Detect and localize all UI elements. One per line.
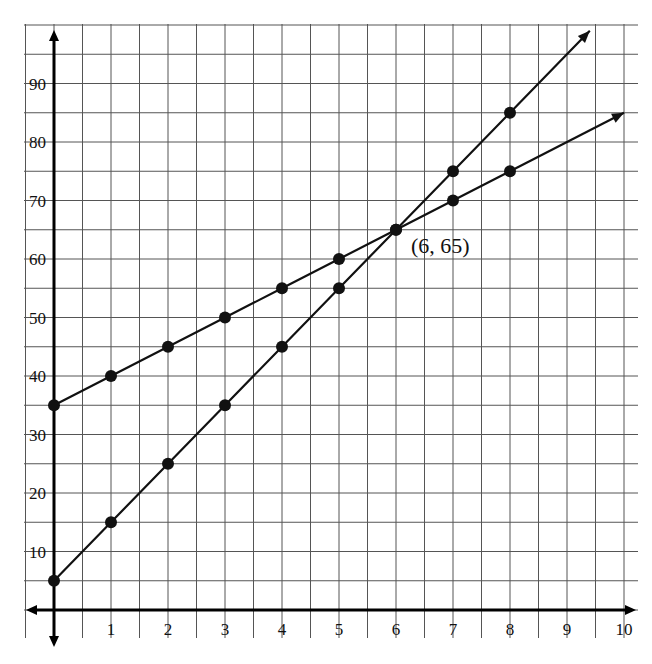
data-point: [219, 312, 231, 324]
x-axis-left-arrow-icon: [26, 605, 37, 615]
annotations: (6, 65): [411, 233, 470, 258]
x-tick-labels: 12345678910: [107, 620, 633, 639]
series-lines: [48, 31, 624, 587]
data-point: [333, 253, 345, 265]
data-point: [162, 458, 174, 470]
x-tick-label: 6: [392, 620, 401, 639]
y-tick-label: 50: [29, 309, 46, 328]
grid: [24, 24, 638, 638]
x-tick-label: 7: [449, 620, 458, 639]
data-point: [48, 399, 60, 411]
data-point: [333, 282, 345, 294]
x-tick-label: 8: [506, 620, 515, 639]
y-axis-down-arrow-icon: [49, 636, 59, 647]
data-point: [447, 165, 459, 177]
data-point: [48, 575, 60, 587]
data-point: [162, 341, 174, 353]
y-tick-label: 60: [29, 250, 46, 269]
data-point: [504, 107, 516, 119]
x-tick-label: 10: [616, 620, 633, 639]
x-tick-label: 1: [107, 620, 116, 639]
y-tick-label: 30: [29, 426, 46, 445]
y-tick-label: 20: [29, 484, 46, 503]
x-axis-right-arrow-icon: [625, 605, 636, 615]
x-tick-label: 9: [563, 620, 572, 639]
data-point: [276, 282, 288, 294]
x-tick-label: 4: [278, 620, 287, 639]
data-point: [105, 516, 117, 528]
x-tick-label: 3: [221, 620, 230, 639]
y-tick-label: 90: [29, 75, 46, 94]
y-tick-label: 40: [29, 367, 46, 386]
y-axis-up-arrow-icon: [49, 30, 59, 41]
data-point: [447, 195, 459, 207]
intersection-label: (6, 65): [411, 233, 470, 258]
x-tick-label: 5: [335, 620, 344, 639]
y-tick-label: 70: [29, 192, 46, 211]
line-chart: 12345678910 102030405060708090 (6, 65): [0, 0, 652, 664]
y-tick-label: 80: [29, 133, 46, 152]
data-point: [504, 165, 516, 177]
y-tick-labels: 102030405060708090: [29, 75, 46, 562]
axes: [26, 30, 636, 647]
data-point: [219, 399, 231, 411]
data-point: [390, 224, 402, 236]
x-tick-label: 2: [164, 620, 173, 639]
data-point: [105, 370, 117, 382]
data-point: [276, 341, 288, 353]
y-tick-label: 10: [29, 543, 46, 562]
